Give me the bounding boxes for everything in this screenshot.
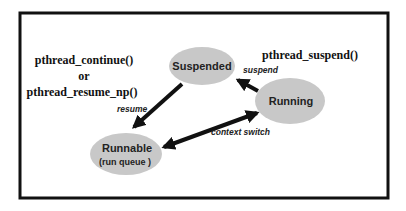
node-suspended: Suspended [169, 47, 235, 85]
thread-state-diagram: Suspended Running Runnable (run queue ) … [0, 0, 406, 211]
resume-api-or: or [78, 69, 90, 83]
diagram-frame [20, 13, 388, 198]
edge-resume-label: resume [117, 104, 148, 114]
edge-context-switch-label: context switch [211, 127, 270, 137]
resume-api-line1: pthread_continue() [35, 53, 133, 67]
node-runnable: Runnable (run queue ) [90, 133, 162, 175]
suspend-api: pthread_suspend() [262, 48, 358, 62]
resume-api-line2: pthread_resume_np() [27, 85, 138, 99]
node-runnable-sublabel: (run queue ) [99, 157, 151, 167]
node-suspended-label: Suspended [172, 60, 231, 72]
node-running: Running [255, 78, 325, 124]
node-runnable-shape [90, 133, 162, 175]
node-running-label: Running [269, 95, 314, 107]
node-runnable-label: Runnable [102, 142, 152, 154]
edge-suspend-label: suspend [243, 65, 279, 75]
edge-suspend [238, 80, 258, 91]
